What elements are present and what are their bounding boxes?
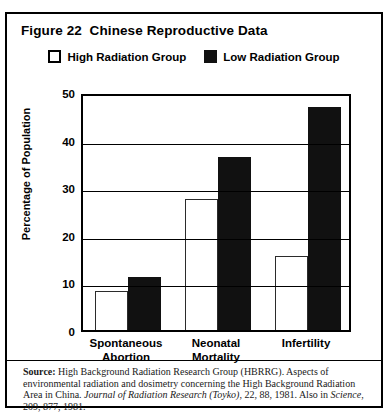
source-divider [7, 360, 381, 361]
legend-item-high-radiation: High Radiation Group [48, 50, 186, 63]
x-axis-label-line: Infertility [261, 336, 351, 350]
bar-high-radiation-1 [185, 199, 218, 330]
x-axis-label-line: Abortion [81, 350, 171, 364]
bar-low-radiation-1 [218, 157, 251, 330]
y-axis-tick-label: 40 [62, 136, 75, 148]
bar-high-radiation-2 [275, 256, 308, 330]
source-text-2: , 22, 88, 1981. Also in [239, 389, 330, 400]
gridline [83, 239, 349, 240]
y-axis-ticks: 01020304050 [7, 94, 81, 332]
source-journal: Journal of Radiation Research (Toyko) [84, 389, 239, 400]
y-axis-tick-label: 10 [62, 278, 75, 290]
plot-area [81, 94, 351, 332]
gridline [83, 286, 349, 287]
x-axis-label-line: Spontaneous [81, 336, 171, 350]
legend-label-high-radiation: High Radiation Group [67, 51, 186, 63]
chart-area: Percentage of Population 01020304050 Spo… [7, 72, 385, 357]
chart-legend: High Radiation Group Low Radiation Group [7, 50, 381, 63]
source-label: Source: [23, 366, 56, 377]
bar-series-container [83, 96, 349, 330]
black-square-icon [204, 50, 217, 63]
x-axis-label-line: Mortality [171, 350, 261, 364]
source-note: Source: High Background Radiation Resear… [23, 366, 367, 412]
y-axis-tick-label: 0 [69, 326, 75, 338]
x-axis-label-line: Neonatal [171, 336, 261, 350]
gridline [83, 191, 349, 192]
gridline [83, 144, 349, 145]
bar-high-radiation-0 [95, 291, 128, 330]
y-axis-tick-label: 50 [62, 88, 75, 100]
y-axis-tick-label: 20 [62, 231, 75, 243]
figure-title: Figure 22 Chinese Reproductive Data [21, 23, 268, 38]
legend-label-low-radiation: Low Radiation Group [223, 51, 339, 63]
white-square-icon [48, 50, 61, 63]
y-axis-tick-label: 30 [62, 183, 75, 195]
legend-item-low-radiation: Low Radiation Group [204, 50, 339, 63]
bar-low-radiation-0 [128, 277, 161, 330]
source-science: Science [331, 389, 362, 400]
bar-low-radiation-2 [308, 107, 341, 330]
figure-container: Figure 22 Chinese Reproductive Data High… [5, 12, 383, 408]
